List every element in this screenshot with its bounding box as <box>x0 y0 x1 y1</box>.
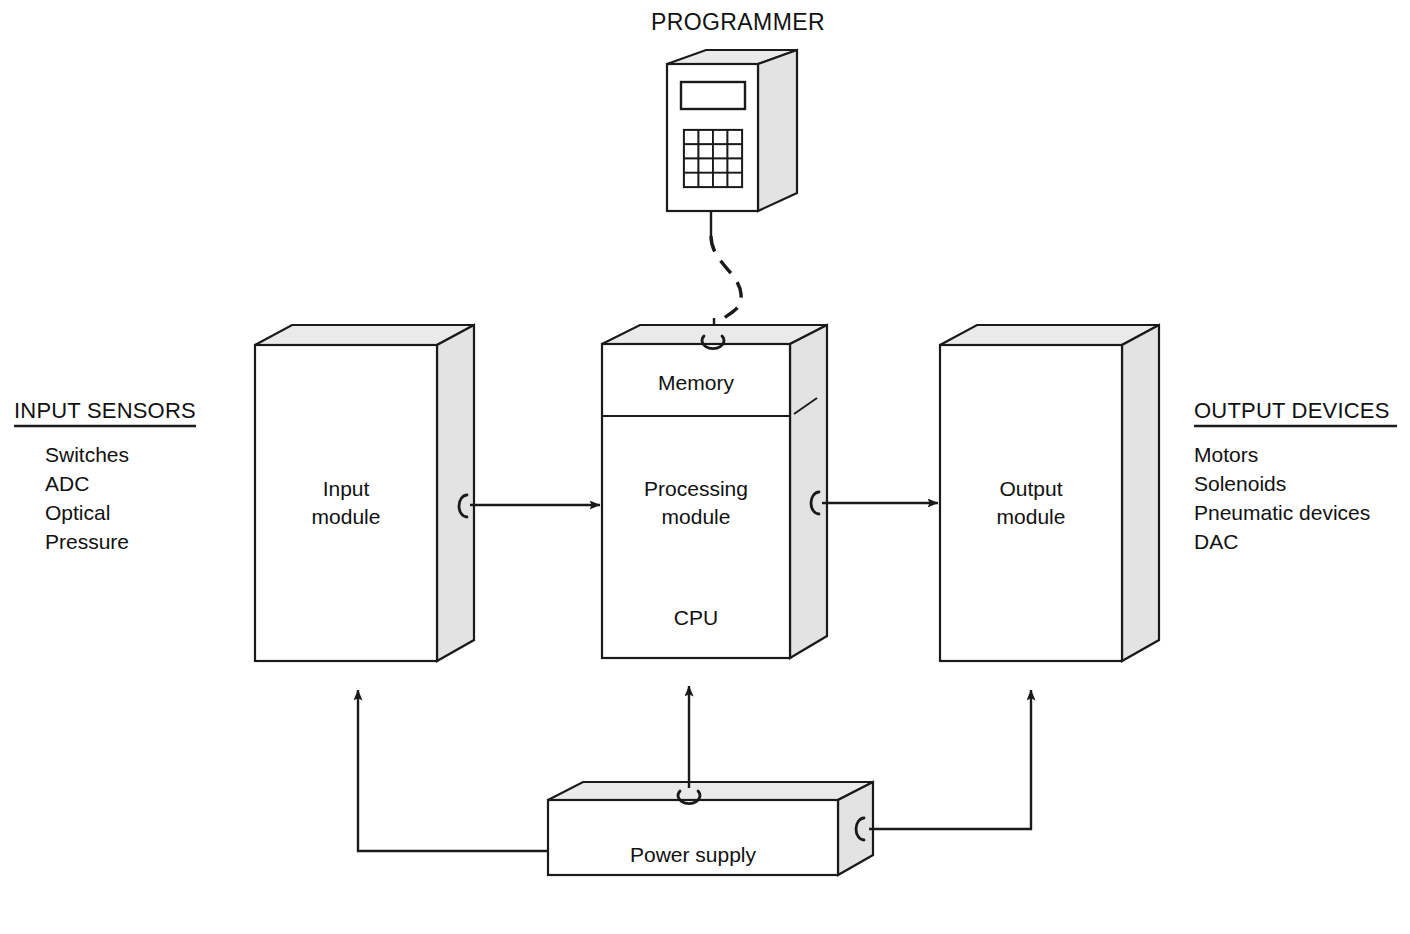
keypad-key[interactable] <box>684 173 699 187</box>
keypad-key[interactable] <box>699 173 714 187</box>
output-devices-heading: OUTPUT DEVICES <box>1194 398 1390 423</box>
input-sensors-panel: INPUT SENSORS Switches ADC Optical Press… <box>14 398 196 553</box>
input-sensors-heading: INPUT SENSORS <box>14 398 196 423</box>
output-module[interactable]: Output module <box>940 325 1159 661</box>
plc-diagram-canvas: PROGRAMMER Input module Memory Processin… <box>0 0 1410 934</box>
input-module[interactable]: Input module <box>255 325 474 661</box>
keypad-key[interactable] <box>728 173 743 187</box>
programmer-label: PROGRAMMER <box>651 9 825 35</box>
keypad-key[interactable] <box>684 159 699 173</box>
processing-module[interactable]: Memory Processing module CPU <box>602 325 827 658</box>
output-devices-panel: OUTPUT DEVICES Motors Solenoids Pneumati… <box>1194 398 1397 553</box>
keypad-key[interactable] <box>728 159 743 173</box>
keypad-key[interactable] <box>728 130 743 144</box>
keypad-key[interactable] <box>713 173 728 187</box>
processing-module-label-line1: Processing <box>644 477 748 500</box>
output-device-item: DAC <box>1194 530 1238 553</box>
power-supply-top-face <box>548 782 873 800</box>
plc-block-diagram: PROGRAMMER Input module Memory Processin… <box>0 0 1410 934</box>
input-module-side-face <box>437 325 474 661</box>
programmer-device[interactable] <box>667 50 797 211</box>
keypad-key[interactable] <box>684 130 699 144</box>
input-sensor-item: Switches <box>45 443 129 466</box>
input-module-front-face <box>255 345 437 661</box>
keypad-key[interactable] <box>699 144 714 158</box>
output-device-item: Solenoids <box>1194 472 1286 495</box>
output-module-label-line2: module <box>997 505 1066 528</box>
input-module-label-line2: module <box>312 505 381 528</box>
input-sensor-item: ADC <box>45 472 89 495</box>
output-device-item: Pneumatic devices <box>1194 501 1370 524</box>
cpu-label: CPU <box>674 606 718 629</box>
programmer-display-screen <box>681 82 745 109</box>
input-module-label-line1: Input <box>323 477 370 500</box>
output-module-side-face <box>1122 325 1159 661</box>
keypad-key[interactable] <box>728 144 743 158</box>
keypad-key[interactable] <box>699 130 714 144</box>
power-supply-label: Power supply <box>630 843 757 866</box>
output-module-front-face <box>940 345 1122 661</box>
keypad-key[interactable] <box>713 159 728 173</box>
programmer-side-face <box>758 50 797 211</box>
keypad-key[interactable] <box>684 144 699 158</box>
input-sensor-item: Optical <box>45 501 110 524</box>
keypad-key[interactable] <box>713 144 728 158</box>
keypad-key[interactable] <box>699 159 714 173</box>
output-module-label-line1: Output <box>999 477 1062 500</box>
power-line-to-input-module <box>358 690 548 851</box>
keypad-key[interactable] <box>713 130 728 144</box>
power-line-to-output-module <box>869 690 1031 829</box>
processing-module-side-face <box>790 325 827 658</box>
power-supply[interactable]: Power supply <box>548 782 873 875</box>
programmer-keypad[interactable] <box>684 130 742 187</box>
programmer-dashed-cable <box>711 236 741 334</box>
output-device-item: Motors <box>1194 443 1258 466</box>
processing-module-label-line2: module <box>662 505 731 528</box>
input-sensor-item: Pressure <box>45 530 129 553</box>
memory-label: Memory <box>658 371 734 394</box>
